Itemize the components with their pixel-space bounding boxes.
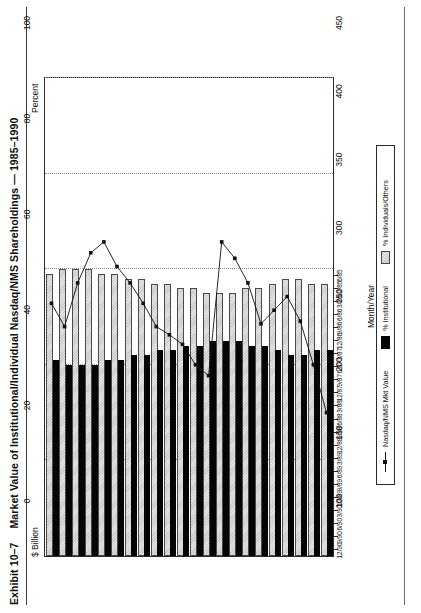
category-label: 12/86 [336,333,343,349]
bar-institutional [236,341,242,556]
bar-group [189,78,202,556]
exhibit-title: Market Value of Institutional/Individual… [8,118,20,529]
category-label: 12/85 [336,281,343,297]
bar-group [84,78,97,556]
bar-institutional [314,350,320,556]
bar-group [124,78,137,556]
bar-group [58,78,71,556]
category-label: 3/86 [336,296,343,308]
footer-divider [404,7,405,605]
percent-tick-row: 020406080100 [33,79,34,557]
category-label: 6/86 [336,309,343,321]
bar-institutional [183,346,189,556]
axis-title-month-year: Month/Year [366,0,376,613]
bar-group [307,78,320,556]
percent-tick-label: 100 [22,16,32,30]
bar-group [176,78,189,556]
bar-group [137,78,150,556]
category-label: 6/90 [336,518,343,530]
bar-institutional [210,341,216,556]
plot-area [44,77,334,557]
bar-group [254,78,267,556]
bar-group [202,78,215,556]
axis-label-billion: $ Billion [30,527,40,557]
bar-institutional [144,355,150,556]
bar-institutional [157,350,163,556]
bar-institutional [249,346,255,556]
bar-institutional [197,346,203,556]
category-label: 3/88 [336,400,343,412]
bar-group [228,78,241,556]
category-label: 12/90 [336,542,343,558]
bar-institutional [92,365,98,556]
percent-tick-label: 80 [22,114,32,123]
category-label: 12/89 [336,490,343,506]
category-label: 3/87 [336,348,343,360]
bar-institutional [301,355,307,556]
bar-institutional [288,355,294,556]
category-axis: 6/8512/853/866/869/8612/863/876/879/8712… [334,79,348,557]
bar-institutional [105,360,111,556]
bar-institutional [327,350,333,556]
billion-tick-label: 450 [334,16,344,30]
legend-item-individuals: % Individuals/Others [381,180,390,264]
bar-group [150,78,163,556]
bar-group [281,78,294,556]
bar-group [71,78,84,556]
percent-tick-label: 40 [22,305,32,314]
category-label: 3/90 [336,505,343,517]
legend-label: % Institutional [381,286,390,331]
bar-institutional [131,355,137,556]
legend-label: % Individuals/Others [381,180,390,246]
exhibit-number: Exhibit 10–7 [8,543,20,605]
category-label: 6/88 [336,413,343,425]
bar-institutional [275,350,281,556]
line-marker-icon [382,452,390,472]
category-label: 3/89 [336,453,343,465]
exhibit-canvas: Exhibit 10–7 Market Value of Institution… [0,0,421,613]
bar-institutional [223,341,229,556]
bar-group [215,78,228,556]
axis-label-percent: Percent [30,84,40,113]
chart-legend: Nasdaq/NMS Mkt Value % Institutional % I… [376,145,395,485]
bar-institutional [53,360,59,556]
black-swatch-icon [381,336,390,349]
legend-item-mkt-value: Nasdaq/NMS Mkt Value [381,371,390,472]
bar-group [110,78,123,556]
bar-group [97,78,110,556]
percent-tick-label: 0 [22,499,32,504]
bar-group [241,78,254,556]
bar-institutional [170,350,176,556]
legend-item-institutional: % Institutional [381,286,390,349]
bar-institutional [118,360,124,556]
category-label: 12/87 [336,385,343,401]
percent-tick-label: 60 [22,209,32,218]
gray-swatch-icon [381,251,390,264]
category-label: 12/88 [336,438,343,454]
bar-group [45,78,58,556]
category-label: 6/89 [336,466,343,478]
bar-institutional [79,365,85,556]
bar-group [163,78,176,556]
category-label: 6/87 [336,361,343,373]
bar-group [320,78,333,556]
bar-institutional [66,365,72,556]
bar-group [268,78,281,556]
bar-group [294,78,307,556]
legend-label: Nasdaq/NMS Mkt Value [381,371,390,447]
bar-institutional [262,346,268,556]
percent-tick-label: 20 [22,401,32,410]
